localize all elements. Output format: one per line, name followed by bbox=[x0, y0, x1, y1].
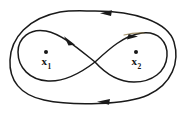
arrowhead-inner-left bbox=[64, 36, 75, 45]
point-x2-label: x2 bbox=[120, 56, 152, 70]
point-x1-dot bbox=[44, 50, 48, 54]
figure-container: x1 x2 bbox=[0, 0, 190, 114]
point-x1: x1 bbox=[30, 50, 62, 70]
point-x1-label: x1 bbox=[30, 56, 62, 70]
point-x2-subscript: 2 bbox=[137, 62, 141, 71]
point-x2: x2 bbox=[120, 50, 152, 70]
point-x2-dot bbox=[134, 50, 138, 54]
diagram-canvas bbox=[0, 0, 190, 114]
point-x1-subscript: 1 bbox=[47, 62, 51, 71]
